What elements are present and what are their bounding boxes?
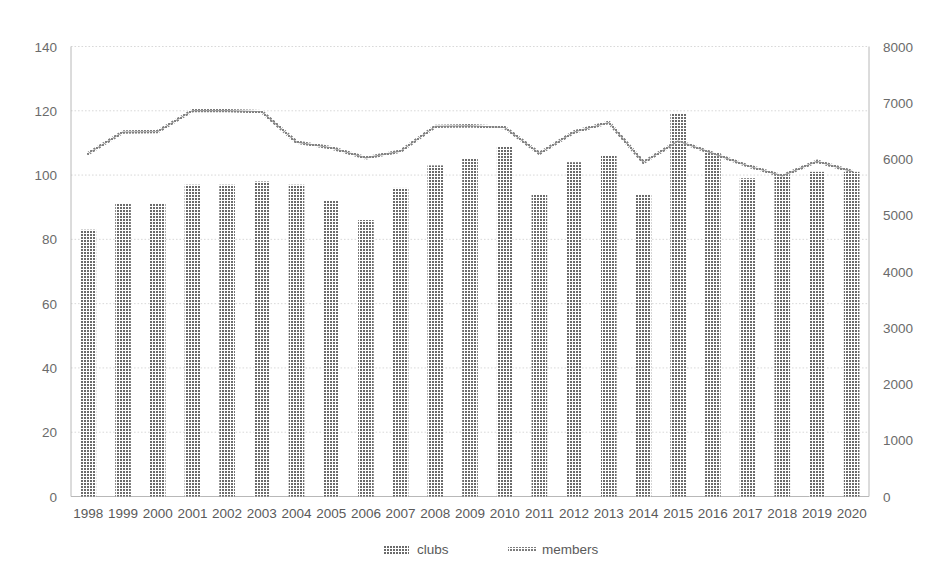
x-axis-tick: 2000 [143,506,173,521]
x-axis-tick: 2018 [767,506,797,521]
bar [254,182,270,497]
chart-container: 020406080100120140 010002000300040005000… [0,0,939,583]
legend-swatch-clubs [383,545,409,554]
right-axis-tick: 6000 [883,152,913,167]
legend-swatch-members [508,547,536,551]
left-axis-labels: 020406080100120140 [34,40,57,505]
left-axis-tick: 60 [42,297,57,312]
x-axis-tick: 2019 [802,506,832,521]
right-axis-tick: 5000 [883,208,913,223]
bar [566,162,582,496]
x-axis-labels: 1998199920002001200220032004200520062007… [73,506,866,521]
x-axis-tick: 2008 [420,506,450,521]
right-axis-tick: 3000 [883,321,913,336]
bar [670,114,686,497]
x-axis-tick: 2007 [386,506,416,521]
x-axis-tick: 2017 [733,506,763,521]
right-axis-tick: 4000 [883,265,913,280]
bar [81,230,97,497]
right-axis-labels: 010002000300040005000600070008000 [883,40,913,505]
x-axis-tick: 2014 [628,506,659,521]
bar [393,188,409,497]
left-axis-tick: 120 [34,104,57,119]
right-axis-tick: 0 [883,490,891,505]
bar [427,165,443,496]
x-axis-tick: 2004 [281,506,312,521]
bar [844,172,860,497]
x-axis-tick: 2005 [316,506,346,521]
bar [150,204,166,497]
bar [601,156,617,497]
right-axis-tick: 1000 [883,433,913,448]
x-axis-tick: 2015 [663,506,693,521]
left-axis-tick: 140 [34,40,57,55]
x-axis-tick: 2001 [177,506,207,521]
right-axis-tick: 2000 [883,377,913,392]
x-axis-tick: 2006 [351,506,381,521]
combo-chart: 020406080100120140 010002000300040005000… [0,0,939,583]
right-axis-tick: 7000 [883,96,913,111]
bar [705,153,721,497]
x-axis-tick: 2002 [212,506,242,521]
bar [219,185,235,497]
bar [497,146,513,496]
x-axis-tick: 2009 [455,506,485,521]
x-axis-tick: 2016 [698,506,728,521]
bar [636,194,652,496]
bar [740,178,756,496]
bar [323,201,339,497]
x-axis-tick: 2012 [559,506,589,521]
x-axis-tick: 2010 [490,506,520,521]
bar [185,185,201,497]
legend-label: members [542,542,599,557]
x-axis-tick: 1998 [73,506,103,521]
bar-series-clubs [81,114,860,497]
bar [115,204,131,497]
bar [774,175,790,496]
x-axis-tick: 1999 [108,506,138,521]
bar [532,194,548,496]
x-axis-tick: 2013 [594,506,624,521]
x-axis-tick: 2020 [837,506,867,521]
left-axis-tick: 80 [42,232,57,247]
left-axis-tick: 40 [42,361,57,376]
legend-label: clubs [417,542,449,557]
bar [358,220,374,496]
left-axis-tick: 0 [49,490,57,505]
x-axis-tick: 2011 [525,506,554,521]
left-axis-tick: 100 [34,168,57,183]
left-axis-tick: 20 [42,425,57,440]
x-axis-tick: 2003 [247,506,277,521]
chart-legend: clubsmembers [383,542,599,557]
bar [462,159,478,497]
right-axis-tick: 8000 [883,40,913,55]
bar [809,172,825,497]
bar [289,185,305,497]
